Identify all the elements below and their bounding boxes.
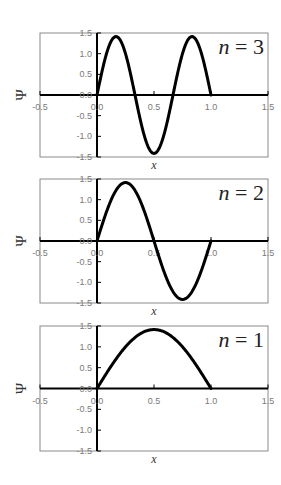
y-tick-label: -1.0 — [76, 131, 92, 141]
y-tick-label: -0.5 — [76, 404, 92, 414]
quantum-number-label: n = 1 — [219, 327, 264, 352]
y-axis-label: Ψ — [13, 235, 29, 247]
x-axis-label: x — [150, 158, 157, 172]
y-tick-label: 0.0 — [79, 90, 92, 100]
x-tick-label: 0.5 — [148, 102, 161, 112]
y-tick-label: 1.0 — [79, 342, 92, 352]
x-tick-label: 0.0 — [91, 248, 104, 258]
x-tick-label: 1.5 — [262, 396, 275, 406]
y-tick-label: 1.5 — [79, 28, 92, 38]
panel-n2: -0.50.00.51.01.51.51.00.50.0-0.5-1.0-1.5… — [13, 174, 274, 318]
y-tick-label: 1.0 — [79, 195, 92, 205]
x-tick-label: -0.5 — [32, 248, 48, 258]
x-tick-label: 0.0 — [91, 396, 104, 406]
x-tick-label: 0.0 — [91, 102, 104, 112]
y-tick-label: 0.0 — [79, 384, 92, 394]
y-tick-label: 0.5 — [79, 215, 92, 225]
y-tick-label: 1.5 — [79, 321, 92, 331]
quantum-number-label: n = 2 — [219, 180, 264, 205]
y-axis-label: Ψ — [13, 382, 29, 394]
x-axis-label: x — [150, 452, 157, 466]
y-tick-label: 0.0 — [79, 236, 92, 246]
y-tick-label: -0.5 — [76, 257, 92, 267]
y-tick-label: -1.0 — [76, 425, 92, 435]
panel-n3: -0.50.00.51.01.51.51.00.50.0-0.5-1.0-1.5… — [13, 28, 274, 172]
x-tick-label: 1.0 — [205, 396, 218, 406]
panel-n1: -0.50.00.51.01.51.51.00.50.0-0.5-1.0-1.5… — [13, 321, 274, 466]
quantum-number-label: n = 3 — [219, 34, 264, 59]
x-tick-label: 1.5 — [262, 102, 275, 112]
x-tick-label: -0.5 — [32, 396, 48, 406]
y-axis-label: Ψ — [13, 89, 29, 101]
x-tick-label: 0.5 — [148, 396, 161, 406]
y-tick-label: -1.0 — [76, 277, 92, 287]
y-tick-label: -0.5 — [76, 111, 92, 121]
y-tick-label: -1.5 — [76, 152, 92, 162]
y-tick-label: -1.5 — [76, 446, 92, 456]
y-tick-label: 1.5 — [79, 174, 92, 184]
y-tick-label: -1.5 — [76, 298, 92, 308]
x-tick-label: 1.5 — [262, 248, 275, 258]
y-tick-label: 0.5 — [79, 69, 92, 79]
x-tick-label: -0.5 — [32, 102, 48, 112]
y-tick-label: 1.0 — [79, 49, 92, 59]
wavefunction-curve — [97, 330, 211, 389]
x-tick-label: 1.0 — [205, 102, 218, 112]
x-axis-label: x — [150, 304, 157, 318]
wavefunction-chart-stack: -0.50.00.51.01.51.51.00.50.0-0.5-1.0-1.5… — [0, 0, 281, 485]
y-tick-label: 0.5 — [79, 363, 92, 373]
